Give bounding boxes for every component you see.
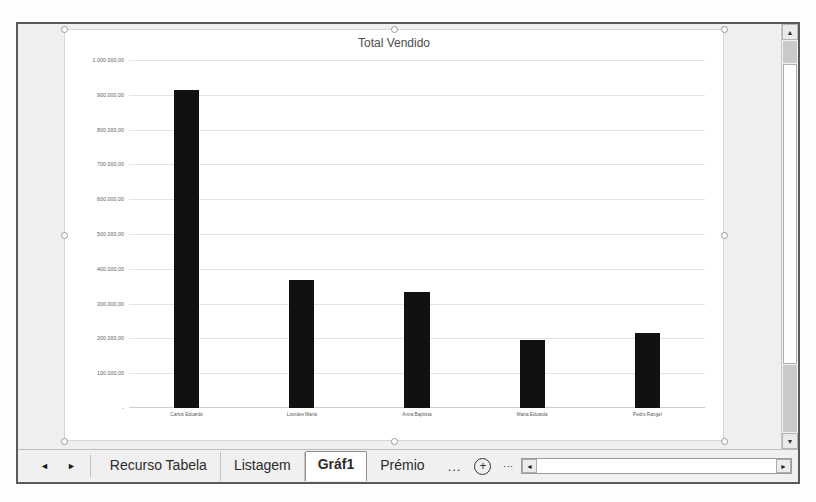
- sheet-nav-arrows: ◄ ►: [22, 455, 91, 477]
- horizontal-scrollbar[interactable]: ◄ ►: [521, 458, 792, 474]
- chart-title: Total Vendido: [65, 36, 723, 50]
- nav-prev-arrow-icon[interactable]: ◄: [40, 462, 49, 471]
- x-axis-tick-label: Anna Baptista: [402, 412, 431, 417]
- scroll-down-button[interactable]: ▼: [782, 433, 798, 449]
- x-axis-tick-label: Maria Eduarda: [517, 412, 548, 417]
- y-axis-tick-label: 1.000.000,00: [93, 57, 125, 63]
- y-axis-tick-label: 100.000,00: [97, 370, 124, 376]
- nav-next-arrow-icon[interactable]: ►: [67, 462, 76, 471]
- gridline: [129, 234, 705, 235]
- gridline: [129, 95, 705, 96]
- scroll-left-button[interactable]: ◄: [522, 459, 537, 473]
- chart-object[interactable]: Total Vendido 1.000.000,00900.000,00800.…: [64, 29, 724, 441]
- bar[interactable]: [289, 280, 314, 408]
- worksheet-canvas[interactable]: Total Vendido 1.000.000,00900.000,00800.…: [18, 24, 781, 449]
- y-axis-tick-label: 900.000,00: [97, 92, 124, 98]
- vertical-ellipsis-icon[interactable]: ⋮: [504, 461, 511, 472]
- y-axis-tick-label: 800.000,00: [97, 127, 124, 133]
- vertical-scroll-thumb[interactable]: [783, 64, 797, 364]
- bar[interactable]: [404, 292, 429, 408]
- sheet-tab-listagem[interactable]: Listagem: [221, 452, 305, 480]
- y-axis-tick-label: -: [122, 405, 124, 411]
- bar[interactable]: [174, 90, 199, 408]
- gridline: [129, 60, 705, 61]
- y-axis-tick-label: 700.000,00: [97, 161, 124, 167]
- y-axis-tick-label: 600.000,00: [97, 196, 124, 202]
- scanned-page-background: Total Vendido 1.000.000,00900.000,00800.…: [0, 0, 816, 502]
- x-axis-tick-label: Carlos Eduardo: [170, 412, 203, 417]
- vertical-scrollbar[interactable]: ▲ ▼: [781, 24, 798, 449]
- scroll-right-button[interactable]: ►: [776, 459, 791, 473]
- vertical-scroll-track-upper[interactable]: [783, 41, 797, 63]
- selection-handle-bottom-left[interactable]: [61, 438, 68, 445]
- selection-handle-bottom-right[interactable]: [721, 438, 728, 445]
- selection-handle-middle-right[interactable]: [721, 232, 728, 239]
- spreadsheet-window: Total Vendido 1.000.000,00900.000,00800.…: [16, 22, 800, 484]
- y-axis-tick-label: 300.000,00: [97, 301, 124, 307]
- sheet-tab-gr-f1[interactable]: Gráf1: [305, 451, 368, 480]
- x-axis-tick-label: Pedro Rangel: [633, 412, 662, 417]
- bar[interactable]: [635, 333, 660, 408]
- sheet-tab-extras: ... + ⋮: [448, 458, 511, 475]
- bar[interactable]: [520, 340, 545, 408]
- y-axis-tick-label: 200.000,00: [97, 335, 124, 341]
- gridline: [129, 269, 705, 270]
- selection-handle-top-left[interactable]: [61, 26, 68, 33]
- y-axis-tick-label: 500.000,00: [97, 231, 124, 237]
- selection-handle-middle-left[interactable]: [61, 232, 68, 239]
- sheet-overflow-icon[interactable]: ...: [448, 460, 462, 473]
- sheet-tabs: Recurso TabelaListagemGráf1Prémio: [97, 452, 438, 481]
- gridline: [129, 130, 705, 131]
- gridline: [129, 164, 705, 165]
- selection-handle-top-center[interactable]: [391, 26, 398, 33]
- selection-handle-top-right[interactable]: [721, 26, 728, 33]
- horizontal-scroll-track[interactable]: [537, 459, 776, 473]
- sheet-tab-recurso-tabela[interactable]: Recurso Tabela: [97, 452, 221, 480]
- scroll-up-button[interactable]: ▲: [782, 24, 798, 40]
- chart-plot-area: 1.000.000,00900.000,00800.000,00700.000,…: [129, 60, 705, 408]
- selection-handle-bottom-center[interactable]: [391, 438, 398, 445]
- plus-circle-icon[interactable]: +: [474, 458, 491, 475]
- sheet-tab-bar: ◄ ► Recurso TabelaListagemGráf1Prémio ..…: [18, 449, 798, 482]
- x-axis-tick-label: Lourdes Maria: [287, 412, 317, 417]
- sheet-tab-pr-mio[interactable]: Prémio: [367, 452, 437, 480]
- y-axis-tick-label: 400.000,00: [97, 266, 124, 272]
- gridline: [129, 199, 705, 200]
- vertical-scroll-track-lower[interactable]: [783, 365, 797, 432]
